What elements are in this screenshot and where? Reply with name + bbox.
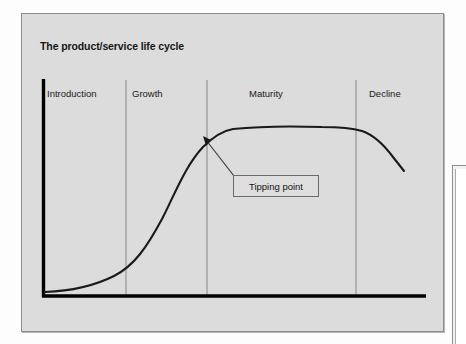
lifecycle-diagram-panel: The product/service life cycle Intr bbox=[21, 13, 444, 332]
lifecycle-curve-svg bbox=[22, 14, 445, 333]
scanned-page: The product/service life cycle Intr bbox=[0, 0, 466, 344]
stage-label-growth: Growth bbox=[132, 88, 163, 99]
tipping-point-label: Tipping point bbox=[249, 181, 303, 192]
adjacent-panel-inner-edge bbox=[455, 169, 466, 344]
stage-label-introduction: Introduction bbox=[47, 88, 97, 99]
stage-label-decline: Decline bbox=[369, 88, 401, 99]
lifecycle-curve bbox=[45, 126, 404, 292]
tipping-point-callout-box: Tipping point bbox=[233, 175, 319, 197]
plot-area bbox=[22, 14, 445, 333]
stage-label-maturity: Maturity bbox=[249, 88, 283, 99]
callout-leader-line bbox=[206, 140, 234, 176]
